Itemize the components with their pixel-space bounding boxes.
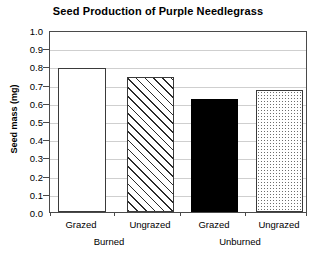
x-tick-mark	[306, 212, 307, 216]
y-tick-label: 1.0	[3, 26, 43, 37]
group-label-burned: Burned	[49, 236, 169, 247]
bar-unburned-grazed	[191, 99, 238, 212]
y-tick-label: 0.9	[3, 44, 43, 55]
y-tick-label: 0.7	[3, 80, 43, 91]
x-tick-label-burned-grazed: Grazed	[41, 219, 121, 230]
y-tick-label: 0.5	[3, 117, 43, 128]
x-tick-mark	[114, 212, 115, 216]
y-tick-label: 0.1	[3, 189, 43, 200]
chart-title: Seed Production of Purple Needlegrass	[0, 5, 316, 17]
bar-burned-grazed	[58, 68, 106, 212]
y-tick-label: 0.4	[3, 135, 43, 146]
gridline	[50, 50, 306, 51]
x-tick-mark	[245, 212, 246, 216]
bar-burned-ungrazed	[127, 77, 174, 212]
bar-unburned-ungrazed	[256, 90, 303, 212]
y-tick-label: 0.2	[3, 171, 43, 182]
x-tick-mark	[50, 212, 51, 216]
y-tick-label: 0.3	[3, 153, 43, 164]
y-tick-label: 0.0	[3, 208, 43, 219]
x-tick-label-unburned-ungrazed: Ungrazed	[239, 219, 316, 230]
plot-area	[49, 31, 307, 213]
y-tick-label: 0.6	[3, 98, 43, 109]
y-tick-label: 0.8	[3, 62, 43, 73]
chart-figure: Seed Production of Purple Needlegrass Se…	[0, 0, 316, 254]
group-label-unburned: Unburned	[180, 236, 300, 247]
x-tick-mark	[180, 212, 181, 216]
